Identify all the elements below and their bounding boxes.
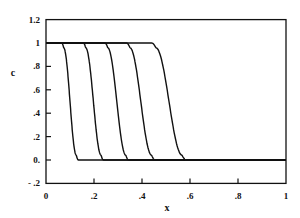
chart: 1.21.8.6.4.20.- .2 0.2.4.6.81 c x: [0, 0, 300, 218]
plot-frame: [46, 20, 286, 184]
y-tick-label: .8: [33, 61, 40, 71]
y-axis-ticks: 1.21.8.6.4.20.- .2: [28, 15, 51, 189]
y-tick-label: 1: [36, 38, 41, 48]
x-axis-ticks: 0.2.4.6.81: [44, 178, 289, 201]
curve-3: [46, 43, 286, 160]
x-tick-label: .2: [91, 191, 98, 201]
y-tick-label: .6: [33, 85, 40, 95]
y-tick-label: 0.: [33, 155, 40, 165]
y-tick-label: .2: [33, 132, 40, 142]
x-axis-label: x: [165, 202, 170, 213]
curve-5: [46, 43, 286, 160]
x-tick-label: .8: [235, 191, 242, 201]
y-tick-label: 1.2: [29, 15, 41, 25]
x-tick-label: 1: [284, 191, 289, 201]
y-tick-label: - .2: [28, 178, 40, 188]
y-tick-label: .4: [33, 108, 40, 118]
curve-4: [46, 43, 286, 160]
curve-1: [46, 43, 286, 160]
curve-2: [46, 43, 286, 160]
y-axis-label: c: [11, 67, 16, 78]
x-tick-label: 0: [44, 191, 49, 201]
x-tick-label: .6: [187, 191, 194, 201]
data-curves: [46, 43, 286, 160]
x-tick-label: .4: [139, 191, 146, 201]
